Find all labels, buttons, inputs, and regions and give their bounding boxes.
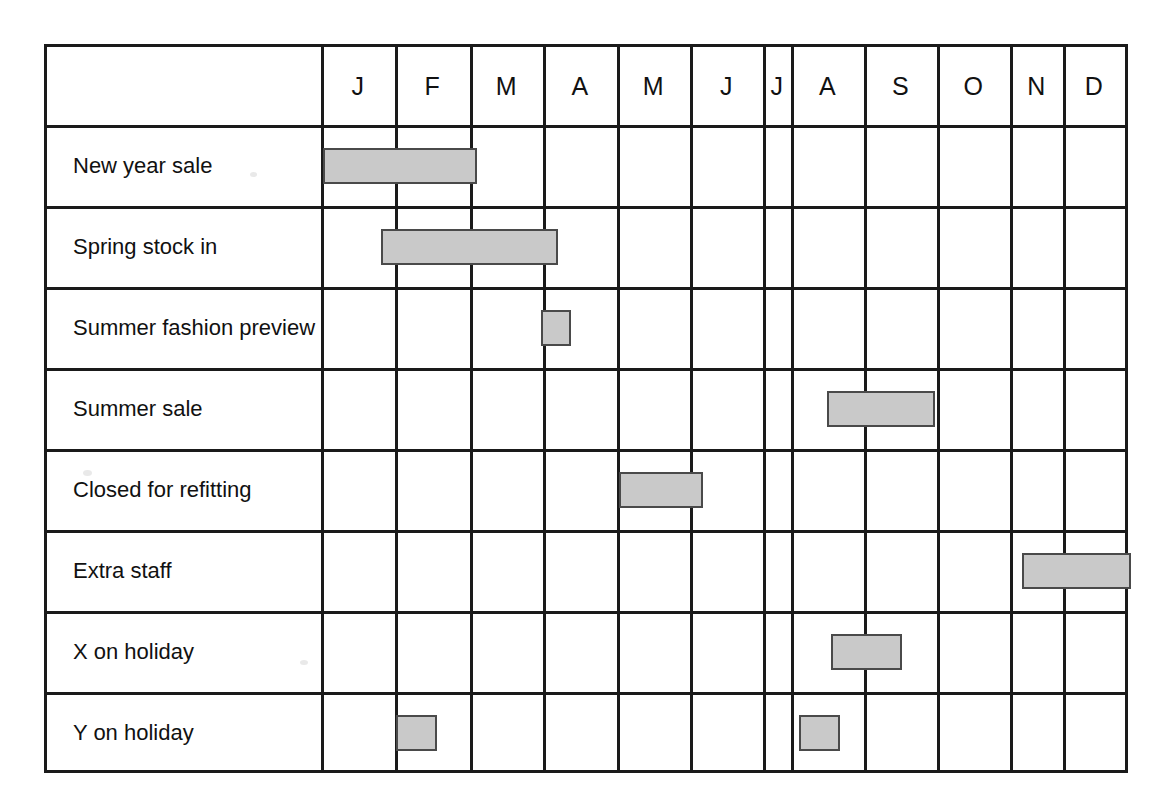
- month-header-label: A: [571, 72, 588, 100]
- month-header-cell-sep: S: [864, 47, 937, 125]
- task-label-text: Summer sale: [73, 396, 203, 422]
- gantt-bar-x-on-holiday[interactable]: [831, 634, 902, 670]
- task-label-closed-for-refitting: Closed for refitting: [47, 449, 325, 530]
- month-header-label: J: [720, 72, 733, 100]
- task-label-summer-sale: Summer sale: [47, 368, 325, 449]
- month-header-cell-dec: D: [1063, 47, 1125, 125]
- month-header-cell-apr: A: [543, 47, 617, 125]
- gantt-table: J F M A M J J A S O N D New year sale Sp…: [44, 44, 1128, 773]
- grid-line-month-J3: [763, 47, 766, 770]
- gantt-bar-y-on-holiday-aug[interactable]: [799, 715, 840, 751]
- month-header-cell-feb: F: [395, 47, 470, 125]
- grid-line-month-A1: [543, 47, 546, 770]
- task-label-text: Spring stock in: [73, 234, 217, 260]
- month-header-label: A: [819, 72, 836, 100]
- month-header-label: M: [643, 72, 664, 100]
- grid-line-month-A2: [791, 47, 794, 770]
- gantt-bar-summer-sale[interactable]: [827, 391, 935, 427]
- task-label-text: Extra staff: [73, 558, 172, 584]
- month-header-cell-nov: N: [1010, 47, 1063, 125]
- task-label-text: New year sale: [73, 153, 212, 179]
- month-header-cell-mar: M: [470, 47, 543, 125]
- month-header-label: S: [892, 72, 909, 100]
- grid-line-month-J2: [690, 47, 693, 770]
- gantt-bar-summer-fashion-preview[interactable]: [541, 310, 571, 346]
- grid-line-month-M2: [617, 47, 620, 770]
- month-header-label: O: [964, 72, 984, 100]
- month-header-label: J: [352, 72, 365, 100]
- task-label-y-on-holiday: Y on holiday: [47, 692, 325, 773]
- task-label-text: Closed for refitting: [73, 477, 252, 503]
- month-header-cell-jan: J: [321, 47, 395, 125]
- gantt-bar-extra-staff[interactable]: [1022, 553, 1131, 589]
- month-header-cell-jul: J: [763, 47, 791, 125]
- gantt-bar-y-on-holiday-feb[interactable]: [396, 715, 437, 751]
- month-header-label: F: [425, 72, 441, 100]
- month-header-cell-jun: J: [690, 47, 763, 125]
- gantt-bar-spring-stock-in[interactable]: [381, 229, 558, 265]
- month-header-label: J: [771, 72, 784, 100]
- month-header-cell-aug: A: [791, 47, 864, 125]
- month-header-label: M: [496, 72, 517, 100]
- task-label-text: X on holiday: [73, 639, 194, 665]
- task-label-text: Y on holiday: [73, 720, 194, 746]
- task-label-extra-staff: Extra staff: [47, 530, 325, 611]
- gantt-chart: J F M A M J J A S O N D New year sale Sp…: [0, 0, 1168, 812]
- grid-line-month-N: [1010, 47, 1013, 770]
- month-header-cell-may: M: [617, 47, 690, 125]
- month-header-cell-oct: O: [937, 47, 1010, 125]
- grid-line-month-O: [937, 47, 940, 770]
- task-label-new-year-sale: New year sale: [47, 125, 325, 206]
- task-label-x-on-holiday: X on holiday: [47, 611, 325, 692]
- task-label-text: Summer fashion preview: [73, 315, 315, 341]
- grid-line-month-D: [1063, 47, 1066, 770]
- month-header-label: D: [1085, 72, 1104, 100]
- gantt-bar-closed-for-refitting[interactable]: [619, 472, 703, 508]
- task-label-spring-stock-in: Spring stock in: [47, 206, 325, 287]
- gantt-bar-new-year-sale[interactable]: [323, 148, 477, 184]
- month-header-label: N: [1027, 72, 1046, 100]
- task-label-summer-fashion-preview: Summer fashion preview: [47, 287, 325, 368]
